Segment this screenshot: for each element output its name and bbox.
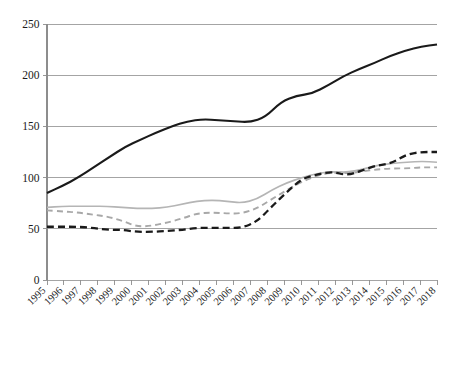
line-chart: 050100150200250 199519961997199819992000… xyxy=(0,0,458,370)
series-line-united-kingdom xyxy=(47,152,437,232)
x-axis-tick-labels: 1995199619971998199920002001200220032004… xyxy=(25,284,438,307)
y-tick-label: 200 xyxy=(22,69,40,81)
y-tick-label: 0 xyxy=(34,274,40,286)
axis-tickmarks xyxy=(43,24,438,285)
y-tick-label: 50 xyxy=(28,223,40,235)
x-tick-label: 2018 xyxy=(415,285,438,308)
y-tick-label: 150 xyxy=(22,120,40,132)
series-line-japan xyxy=(47,44,437,192)
series-line-united-states xyxy=(47,167,437,226)
y-tick-label: 100 xyxy=(22,172,40,184)
data-series xyxy=(47,44,437,231)
chart-canvas: 050100150200250 199519961997199819992000… xyxy=(0,0,458,370)
gridlines xyxy=(47,24,437,280)
y-tick-label: 250 xyxy=(22,18,40,30)
y-axis-tick-labels: 050100150200250 xyxy=(22,18,40,286)
